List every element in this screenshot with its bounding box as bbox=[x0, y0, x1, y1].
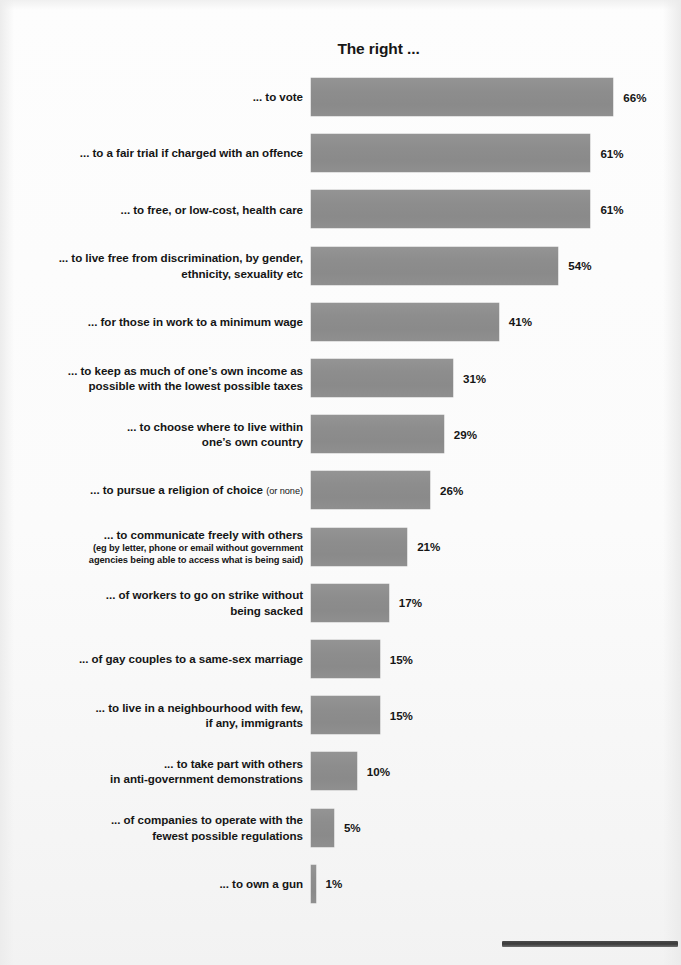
bar-category-label-line: ... to pursue a religion of choice (or n… bbox=[13, 482, 303, 500]
bar-row: ... to a fair trial if charged with an o… bbox=[0, 134, 681, 172]
bar-category-label-text: ... of companies to operate with the bbox=[111, 813, 303, 826]
bar-category-label-line: ... to free, or low-cost, health care bbox=[13, 202, 303, 218]
bar-category-label-line: if any, immigrants bbox=[13, 715, 303, 731]
bar-category-label-line: one’s own country bbox=[13, 434, 303, 450]
bar-value-label: 17% bbox=[399, 596, 422, 609]
bar-category-label-line: ... to own a gun bbox=[13, 876, 303, 892]
bar-row: ... to live in a neighbourhood with few,… bbox=[0, 696, 681, 734]
bar bbox=[311, 752, 357, 790]
bar-row: ... to vote66% bbox=[0, 78, 681, 116]
bar-category-label-text: ... to pursue a religion of choice bbox=[90, 483, 266, 496]
bar bbox=[311, 415, 444, 453]
bar-row: ... to take part with othersin anti-gove… bbox=[0, 752, 681, 790]
bar-category-label-text: in anti-government demonstrations bbox=[110, 772, 303, 785]
bar-row: ... of workers to go on strike withoutbe… bbox=[0, 584, 681, 622]
bar-row: ... to own a gun1% bbox=[0, 865, 681, 903]
bar bbox=[311, 190, 590, 228]
bar-value-label: 41% bbox=[509, 315, 532, 328]
bar-value-label: 54% bbox=[568, 259, 591, 272]
bar-category-label-line: ... to communicate freely with others bbox=[13, 527, 303, 543]
bar-category-label-text: fewest possible regulations bbox=[152, 829, 303, 842]
bar-value-label: 1% bbox=[326, 877, 343, 890]
bar-category-label: ... to live in a neighbourhood with few,… bbox=[13, 700, 303, 731]
bar-category-label-line: ... to take part with others bbox=[13, 756, 303, 772]
bar-category-label-text: ... to vote bbox=[253, 90, 303, 103]
bar-category-label: ... to own a gun bbox=[13, 876, 303, 892]
bar-category-label-line: ... to choose where to live within bbox=[13, 419, 303, 435]
bar-category-label-text: ... to choose where to live within bbox=[127, 420, 303, 433]
bar-category-label-line: ... to a fair trial if charged with an o… bbox=[13, 145, 303, 161]
bar-category-label-line: ... for those in work to a minimum wage bbox=[13, 314, 303, 330]
bar-value-label: 15% bbox=[390, 653, 413, 666]
bar-category-label-text: ... to live in a neighbourhood with few, bbox=[95, 701, 303, 714]
bar-row: ... to keep as much of one’s own income … bbox=[0, 359, 681, 397]
bar-category-label-line: ethnicity, sexuality etc bbox=[13, 266, 303, 282]
bar-value-label: 10% bbox=[367, 765, 390, 778]
bar bbox=[311, 809, 334, 847]
bar-value-label: 66% bbox=[623, 91, 646, 104]
bar-category-label-text: ... of gay couples to a same-sex marriag… bbox=[79, 652, 303, 665]
bar bbox=[311, 865, 316, 903]
bar-category-label: ... to keep as much of one’s own income … bbox=[13, 363, 303, 394]
bar-category-label-text: ... to free, or low-cost, health care bbox=[121, 203, 303, 216]
bar-category-label: ... to free, or low-cost, health care bbox=[13, 202, 303, 218]
bar-category-label: ... for those in work to a minimum wage bbox=[13, 314, 303, 330]
bar bbox=[311, 134, 590, 172]
bar-row: ... to communicate freely with others(eg… bbox=[0, 528, 681, 566]
bar-row: ... to free, or low-cost, health care61% bbox=[0, 190, 681, 228]
bar-category-label: ... to take part with othersin anti-gove… bbox=[13, 756, 303, 787]
bar bbox=[311, 696, 380, 734]
bar-value-label: 15% bbox=[390, 709, 413, 722]
bar-category-label-text: if any, immigrants bbox=[206, 716, 303, 729]
bar bbox=[311, 584, 389, 622]
bar-category-label-text: ... for those in work to a minimum wage bbox=[88, 315, 303, 328]
bar-row: ... to live free from discrimination, by… bbox=[0, 247, 681, 285]
bar-value-label: 61% bbox=[600, 203, 623, 216]
bar bbox=[311, 78, 613, 116]
bar-category-label-text: possible with the lowest possible taxes bbox=[88, 379, 303, 392]
bar bbox=[311, 471, 430, 509]
bar-category-label-text: being sacked bbox=[230, 604, 303, 617]
bar-category-label: ... to a fair trial if charged with an o… bbox=[13, 145, 303, 161]
bar-category-label: ... of workers to go on strike withoutbe… bbox=[13, 587, 303, 618]
bar-category-label: ... to pursue a religion of choice (or n… bbox=[13, 482, 303, 500]
bar-category-label-text: ... to a fair trial if charged with an o… bbox=[80, 146, 303, 159]
bar-row: ... for those in work to a minimum wage4… bbox=[0, 303, 681, 341]
bar-category-label-subline: agencies being able to access what is be… bbox=[13, 554, 303, 566]
bar-row: ... of companies to operate with thefewe… bbox=[0, 809, 681, 847]
bar-category-label: ... to choose where to live withinone’s … bbox=[13, 419, 303, 450]
bar bbox=[311, 640, 380, 678]
bar-category-label-text: ... to own a gun bbox=[219, 877, 303, 890]
bar bbox=[311, 359, 453, 397]
bar-value-label: 29% bbox=[454, 428, 477, 441]
bar-category-label-line: in anti-government demonstrations bbox=[13, 771, 303, 787]
bar-category-label-line: ... to live in a neighbourhood with few, bbox=[13, 700, 303, 716]
bar-value-label: 5% bbox=[344, 821, 361, 834]
bar-category-label: ... of companies to operate with thefewe… bbox=[13, 812, 303, 843]
bar-row: ... to pursue a religion of choice (or n… bbox=[0, 471, 681, 509]
bar-category-label-line: ... to live free from discrimination, by… bbox=[13, 250, 303, 266]
bar-value-label: 26% bbox=[440, 484, 463, 497]
bar-category-label-line: ... to keep as much of one’s own income … bbox=[13, 363, 303, 379]
bar-category-label-line: ... to vote bbox=[13, 89, 303, 105]
bar bbox=[311, 247, 558, 285]
horizontal-bar-chart: The right ... ... to vote66%... to a fai… bbox=[0, 0, 681, 965]
bar-category-label-line: ... of companies to operate with the bbox=[13, 812, 303, 828]
bar-category-label-text: ... to keep as much of one’s own income … bbox=[68, 364, 303, 377]
bar-category-label-parenthetical: (or none) bbox=[266, 486, 303, 496]
bar-category-label-text: ... of workers to go on strike without bbox=[106, 588, 303, 601]
bar-category-label-text: ... to communicate freely with others bbox=[104, 528, 303, 541]
bar bbox=[311, 528, 407, 566]
bar-category-label-line: possible with the lowest possible taxes bbox=[13, 378, 303, 394]
bar-category-label-line: ... of gay couples to a same-sex marriag… bbox=[13, 651, 303, 667]
bar-category-label: ... to communicate freely with others(eg… bbox=[13, 527, 303, 567]
bar-category-label-line: being sacked bbox=[13, 603, 303, 619]
page-edge-artifact bbox=[502, 941, 678, 947]
bar-row: ... to choose where to live withinone’s … bbox=[0, 415, 681, 453]
bar-category-label-text: ... to live free from discrimination, by… bbox=[59, 251, 303, 264]
bar-category-label: ... to vote bbox=[13, 89, 303, 105]
chart-title: The right ... bbox=[0, 40, 681, 58]
bar-value-label: 21% bbox=[417, 540, 440, 553]
bar-category-label: ... to live free from discrimination, by… bbox=[13, 250, 303, 281]
bar-value-label: 61% bbox=[600, 147, 623, 160]
